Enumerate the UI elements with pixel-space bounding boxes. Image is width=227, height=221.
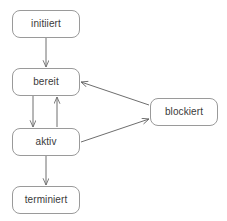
edge-aktiv-to-blockiert — [81, 119, 149, 142]
edge-blockiert-to-bereit — [81, 82, 149, 105]
state-node-initiiert[interactable]: initiiert — [12, 10, 80, 38]
state-label-initiiert: initiiert — [31, 19, 61, 29]
state-label-blockiert: blockiert — [165, 107, 203, 117]
state-node-bereit[interactable]: bereit — [12, 68, 80, 96]
state-node-blockiert[interactable]: blockiert — [150, 98, 218, 126]
state-node-aktiv[interactable]: aktiv — [12, 128, 80, 156]
state-diagram: initiiert bereit aktiv terminiert blocki… — [0, 0, 227, 221]
state-label-terminiert: terminiert — [25, 195, 68, 205]
state-node-terminiert[interactable]: terminiert — [12, 186, 80, 214]
state-label-aktiv: aktiv — [35, 137, 56, 147]
state-label-bereit: bereit — [33, 77, 59, 87]
